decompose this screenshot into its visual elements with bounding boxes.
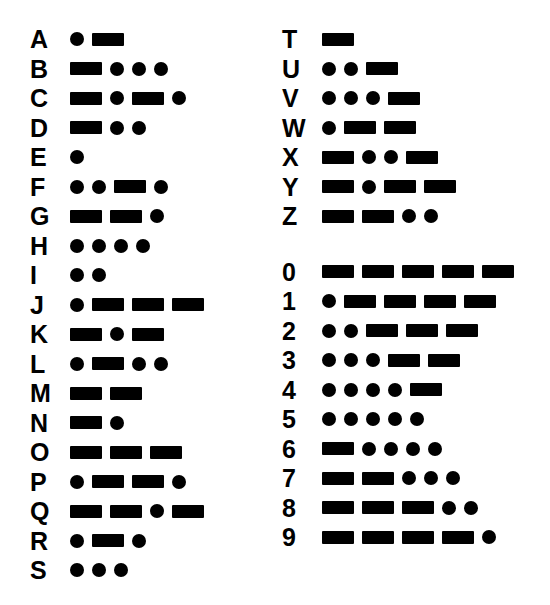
morse-row-4: 4 [282,379,442,401]
morse-row-T: T [282,28,354,50]
dot-symbol [154,357,168,371]
morse-row-Z: Z [282,205,438,227]
dash-symbol [406,324,438,337]
row-label-7: 7 [282,467,322,489]
dot-symbol [402,209,416,223]
dash-symbol [388,354,420,367]
morse-row-6: 6 [282,438,442,460]
morse-code-7 [322,471,460,485]
dash-symbol [70,210,102,223]
morse-row-3: 3 [282,349,460,371]
dash-symbol [406,151,438,164]
dot-symbol [132,534,146,548]
dot-symbol [344,62,358,76]
dash-symbol [402,531,434,544]
dot-symbol [70,298,84,312]
dot-symbol [410,412,424,426]
morse-row-Y: Y [282,176,456,198]
dot-symbol [446,471,460,485]
dot-symbol [154,62,168,76]
morse-row-D: D [30,117,146,139]
morse-row-H: H [30,235,150,257]
morse-code-R [70,534,146,548]
dot-symbol [424,471,438,485]
dot-symbol [366,353,380,367]
morse-code-H [70,239,150,253]
morse-row-L: L [30,353,168,375]
dash-symbol [388,92,420,105]
dot-symbol [322,353,336,367]
morse-row-F: F [30,176,168,198]
dash-symbol [362,265,394,278]
dash-symbol [362,210,394,223]
dash-symbol [110,387,142,400]
dot-symbol [402,471,416,485]
morse-row-K: K [30,323,164,345]
dot-symbol [344,412,358,426]
dot-symbol [344,353,358,367]
row-label-O: O [30,441,70,463]
dash-symbol [322,501,354,514]
dot-symbol [150,504,164,518]
row-label-G: G [30,205,70,227]
dash-symbol [410,383,442,396]
morse-row-M: M [30,382,142,404]
row-label-Y: Y [282,176,322,198]
row-label-8: 8 [282,497,322,519]
row-label-R: R [30,530,70,552]
morse-code-L [70,357,168,371]
morse-code-4 [322,383,442,397]
dash-symbol [446,324,478,337]
dot-symbol [70,534,84,548]
row-label-W: W [282,117,322,139]
dot-symbol [172,91,186,105]
row-label-Z: Z [282,205,322,227]
morse-row-E: E [30,146,84,168]
row-label-B: B [30,58,70,80]
dash-symbol [322,531,354,544]
dot-symbol [132,62,146,76]
dash-symbol [70,328,102,341]
morse-code-K [70,327,164,341]
dot-symbol [322,412,336,426]
dash-symbol [344,295,376,308]
dash-symbol [424,180,456,193]
dash-symbol [464,295,496,308]
morse-row-C: C [30,87,186,109]
row-label-N: N [30,412,70,434]
dash-symbol [402,501,434,514]
dot-symbol [362,442,376,456]
dot-symbol [322,62,336,76]
morse-code-6 [322,442,442,456]
row-label-L: L [30,353,70,375]
morse-code-X [322,150,438,164]
dot-symbol [322,121,336,135]
dash-symbol [70,121,102,134]
dash-symbol [322,210,354,223]
dot-symbol [70,268,84,282]
dash-symbol [92,534,124,547]
row-label-E: E [30,146,70,168]
morse-code-D [70,121,146,135]
dot-symbol [70,150,84,164]
morse-row-Q: Q [30,500,204,522]
morse-code-J [70,298,204,312]
dash-symbol [92,357,124,370]
dot-symbol [92,239,106,253]
dash-symbol [402,265,434,278]
dash-symbol [110,210,142,223]
morse-row-B: B [30,58,168,80]
morse-code-9 [322,530,496,544]
dash-symbol [322,33,354,46]
dot-symbol [384,442,398,456]
dash-symbol [384,180,416,193]
row-label-U: U [282,58,322,80]
morse-code-C [70,91,186,105]
morse-code-U [322,62,398,76]
morse-code-I [70,268,106,282]
dash-symbol [344,121,376,134]
morse-row-P: P [30,471,186,493]
row-label-K: K [30,323,70,345]
dash-symbol [366,62,398,75]
dash-symbol [362,472,394,485]
